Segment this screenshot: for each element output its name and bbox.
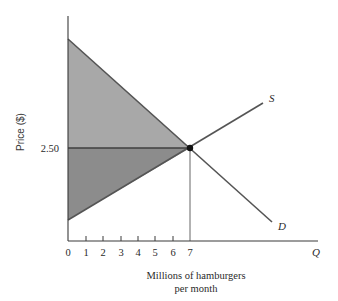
x-tick-label: 7 (187, 247, 192, 258)
surplus-chart: 0 1 2 3 4 5 6 7 2.50 Price ($) S D Q Mil… (0, 0, 338, 301)
y-axis-label: Price ($) (15, 113, 26, 151)
x-tick-label: 3 (118, 247, 123, 258)
x-axis-label-line-2: per month (175, 283, 219, 294)
x-axis-end-label: Q (312, 246, 320, 258)
equilibrium-point (187, 145, 193, 151)
x-tick-label: 2 (100, 247, 105, 258)
demand-label: D (277, 220, 286, 232)
x-ticks (86, 236, 173, 241)
x-tick-label: 5 (152, 247, 157, 258)
x-tick-label: 4 (135, 247, 141, 258)
x-tick-label: 6 (170, 247, 175, 258)
x-axis-label-line-1: Millions of hamburgers (147, 270, 246, 281)
x-tick-label: 0 (65, 247, 70, 258)
supply-label: S (269, 92, 275, 104)
x-tick-label: 1 (83, 247, 88, 258)
x-tick-labels: 0 1 2 3 4 5 6 7 (65, 247, 192, 258)
y-tick-label-price: 2.50 (41, 143, 59, 154)
